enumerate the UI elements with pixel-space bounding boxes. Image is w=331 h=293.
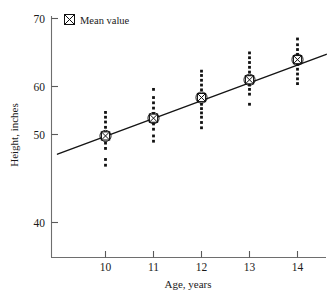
data-point	[152, 96, 155, 99]
data-point	[152, 107, 155, 110]
data-point	[200, 112, 203, 115]
data-point	[296, 68, 299, 71]
data-point	[104, 111, 107, 114]
mean-marker	[244, 74, 255, 85]
legend-marker-crossed-square-icon	[65, 15, 75, 25]
x-axis-title: Age, years	[164, 278, 211, 290]
data-point	[104, 142, 107, 145]
y-tick-label-60: 60	[34, 81, 46, 93]
data-point	[104, 126, 107, 129]
mean-marker	[148, 113, 159, 124]
mean-marker	[196, 92, 207, 103]
x-axis-ticks	[106, 251, 298, 258]
data-point	[200, 74, 203, 77]
data-point	[200, 107, 203, 110]
data-point	[200, 88, 203, 91]
data-point	[248, 103, 251, 106]
data-point	[296, 43, 299, 46]
data-point	[248, 88, 251, 91]
y-axis-tick-labels: 70 60 50 40	[34, 13, 46, 229]
data-point	[200, 70, 203, 73]
legend: Mean value	[65, 15, 130, 26]
axes-spines	[51, 16, 326, 258]
y-axis-ticks	[52, 19, 59, 223]
data-point	[248, 52, 251, 55]
data-point	[296, 73, 299, 76]
x-tick-label-12: 12	[196, 261, 208, 273]
data-point	[104, 121, 107, 124]
data-point	[104, 158, 107, 161]
data-point	[296, 82, 299, 85]
data-point	[200, 126, 203, 129]
data-point	[104, 116, 107, 119]
data-point	[152, 88, 155, 91]
data-point	[200, 84, 203, 87]
y-tick-label-70: 70	[34, 13, 46, 25]
y-tick-label-40: 40	[34, 217, 46, 229]
mean-marker	[292, 54, 303, 65]
x-tick-label-10: 10	[100, 261, 112, 273]
mean-marker	[100, 130, 111, 141]
chart-figure: 70 60 50 40 10 11 12 13 14 Age, years He…	[0, 0, 331, 293]
data-point	[248, 93, 251, 96]
data-point	[152, 101, 155, 104]
data-point	[200, 121, 203, 124]
data-point	[248, 56, 251, 59]
x-tick-label-14: 14	[292, 261, 304, 273]
x-tick-label-13: 13	[244, 261, 256, 273]
data-point	[104, 164, 107, 167]
data-point	[296, 38, 299, 41]
data-point	[248, 66, 251, 69]
data-point	[152, 128, 155, 131]
legend-label-mean-value: Mean value	[80, 15, 130, 26]
scatter-plot-canvas: 70 60 50 40 10 11 12 13 14 Age, years He…	[0, 0, 331, 293]
data-point	[248, 71, 251, 74]
data-point	[248, 61, 251, 64]
y-tick-label-50: 50	[34, 129, 46, 141]
regression-line	[58, 54, 327, 154]
x-tick-label-11: 11	[148, 261, 159, 273]
data-point	[200, 79, 203, 82]
x-axis-tick-labels: 10 11 12 13 14	[100, 261, 304, 273]
data-point	[296, 48, 299, 51]
regression-line-layer	[58, 54, 327, 154]
data-point	[200, 116, 203, 119]
y-axis-title: Height, inches	[8, 103, 20, 167]
data-point	[152, 140, 155, 143]
data-point	[104, 147, 107, 150]
data-point	[296, 77, 299, 80]
data-point	[152, 135, 155, 138]
